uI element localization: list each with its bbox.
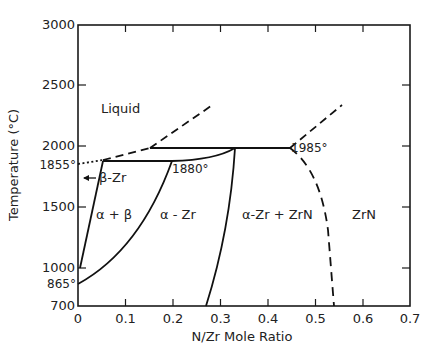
svg-text:β-Zr: β-Zr [99,170,127,185]
zrn-phase-boundary [290,148,334,306]
alpha-zrn-boundary [206,148,235,306]
liquidus-dashed-upper [150,106,211,148]
svg-text:1855°: 1855° [39,158,76,172]
x-tick-labels: 0 0.1 0.2 0.3 0.4 0.5 0.6 0.7 [74,311,420,326]
arrow-head-icon [83,175,89,181]
svg-text:1000: 1000 [42,260,75,275]
svg-text:Liquid: Liquid [101,101,140,116]
y-ticks-left [78,85,86,268]
svg-text:0.6: 0.6 [353,311,374,326]
svg-text:0.7: 0.7 [400,311,421,326]
liquidus-dashed-lower [103,148,150,160]
phase-boundaries [78,105,342,306]
svg-text:α + β: α + β [96,207,132,222]
svg-text:1880°: 1880° [172,162,209,176]
svg-text:α - Zr: α - Zr [160,207,196,222]
svg-text:0.2: 0.2 [163,311,184,326]
svg-text:1500: 1500 [42,199,75,214]
x-axis-title: N/Zr Mole Ratio [192,329,293,344]
x-ticks-top [126,25,364,32]
svg-text:ZrN: ZrN [352,207,376,222]
plot-frame [78,25,410,306]
liquidus-dotted-line [78,160,103,164]
svg-text:2000: 2000 [42,138,75,153]
y-ticks-right [402,85,410,268]
svg-text:1985°: 1985° [291,141,328,155]
svg-text:700: 700 [50,298,75,313]
svg-text:0.3: 0.3 [210,311,231,326]
svg-text:3000: 3000 [42,17,75,32]
svg-text:865°: 865° [47,277,76,291]
svg-text:2500: 2500 [42,77,75,92]
phase-diagram: 0 0.1 0.2 0.3 0.4 0.5 0.6 0.7 700 1000 1… [0,0,434,358]
svg-text:0.5: 0.5 [305,311,326,326]
alpha-solvus-curve [172,148,235,161]
svg-text:α-Zr + ZrN: α-Zr + ZrN [242,207,313,222]
svg-text:0.4: 0.4 [258,311,279,326]
svg-text:0.1: 0.1 [115,311,136,326]
x-ticks-bottom [126,299,364,306]
svg-text:0: 0 [74,311,82,326]
y-axis-title: Temperature (°C) [6,109,21,222]
